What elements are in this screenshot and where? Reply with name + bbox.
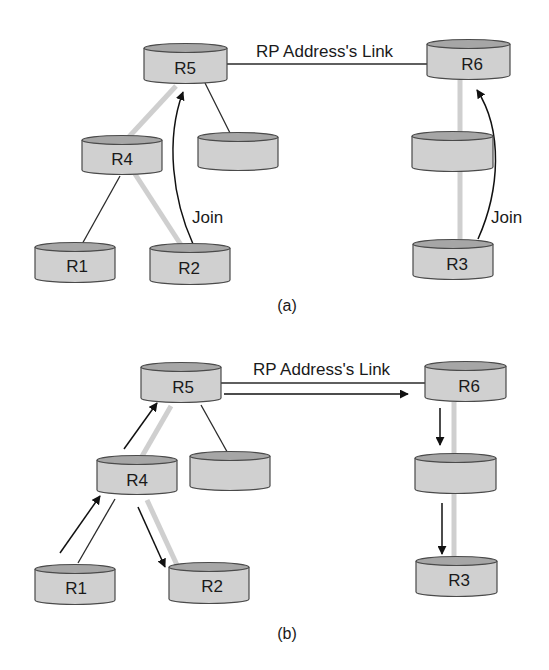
router-r6: R6 <box>427 40 510 80</box>
join-label-right: Join <box>491 208 522 227</box>
data-flow-arrow-r4-r2 <box>138 507 165 567</box>
router-r2: R2 <box>150 244 230 285</box>
router-r1: R1 <box>35 565 115 605</box>
multicast-tree-diagram: RP Address's Link Join Join R5 R6 R4 <box>0 0 549 670</box>
svg-text:R4: R4 <box>111 150 133 169</box>
router-unnamed-right <box>415 454 496 494</box>
shared-tree-branch-r5-r4 <box>141 406 171 458</box>
svg-text:R1: R1 <box>65 579 87 598</box>
router-r4: R4 <box>97 456 177 495</box>
rp-link-label: RP Address's Link <box>256 42 394 61</box>
router-r2: R2 <box>169 563 249 604</box>
caption-a: (a) <box>277 297 297 314</box>
svg-text:R2: R2 <box>201 577 223 596</box>
router-r5: R5 <box>141 363 221 403</box>
router-r5: R5 <box>144 44 227 84</box>
router-unnamed-left <box>190 452 270 491</box>
panel-a: RP Address's Link Join Join R5 R6 R4 <box>35 40 522 315</box>
router-r4: R4 <box>82 136 162 175</box>
svg-text:R3: R3 <box>448 571 470 590</box>
svg-text:R6: R6 <box>458 377 480 396</box>
svg-text:R6: R6 <box>461 55 483 74</box>
router-unnamed-right <box>412 132 493 172</box>
data-flow-arrow-r1-r4 <box>60 496 100 553</box>
router-r6: R6 <box>425 362 506 402</box>
join-label-left: Join <box>192 208 223 227</box>
link-r5-unnamed <box>205 83 232 137</box>
svg-text:R5: R5 <box>174 59 196 78</box>
panel-b: RP Address's Link R5 R6 R4 <box>35 360 506 642</box>
link-r4-r1 <box>78 499 115 563</box>
join-arrow-r2 <box>173 92 193 244</box>
svg-text:R3: R3 <box>446 255 468 274</box>
svg-text:R4: R4 <box>126 471 148 490</box>
router-r3: R3 <box>413 240 493 280</box>
rp-link-label: RP Address's Link <box>253 360 391 379</box>
shared-tree-branch-r5-r4 <box>126 86 176 140</box>
router-r3: R3 <box>416 557 497 597</box>
router-unnamed-left <box>198 133 278 171</box>
router-r1: R1 <box>35 243 115 283</box>
svg-text:R2: R2 <box>178 259 200 278</box>
shared-tree-branch-r4-r2 <box>147 500 177 565</box>
svg-text:R1: R1 <box>66 257 88 276</box>
svg-text:R5: R5 <box>172 378 194 397</box>
link-r4-r1 <box>81 176 120 246</box>
link-r5-unnamed <box>201 405 230 457</box>
caption-b: (b) <box>277 625 297 642</box>
